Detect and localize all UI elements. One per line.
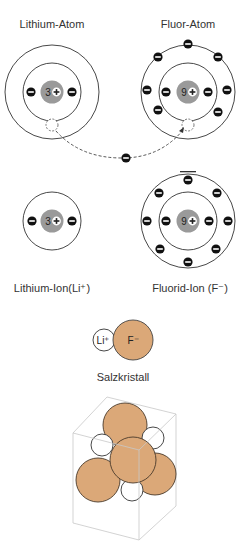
fluor-nucleus-number: 9: [181, 87, 187, 98]
vacated-electron-slot: [46, 119, 58, 131]
salt-crystal: [73, 397, 176, 540]
electron-target-slot: [182, 119, 194, 131]
lithium-ion-label: Lithium-Ion(Li⁺): [14, 282, 90, 294]
electron-transfer-arrow: [56, 127, 184, 163]
fluor-atom: 9: [141, 39, 235, 139]
li-plus-label: Li⁺: [97, 335, 110, 346]
lithium-atom: 3: [5, 45, 99, 139]
negative-charge-mark: [180, 171, 196, 172]
ionic-bond-diagram: Lithium-Atom 3 Fluor-Atom 9: [0, 0, 245, 544]
fluorid-ion-nucleus-number: 9: [181, 216, 187, 227]
transferring-electron-icon: [121, 153, 130, 162]
f-minus-label: F⁻: [127, 335, 138, 346]
fluor-atom-label: Fluor-Atom: [161, 18, 215, 30]
electron-icon: [26, 87, 35, 96]
crystal-label: Salzkristall: [97, 371, 150, 383]
electron-icon: [67, 87, 76, 96]
fluorid-ion: 9: [141, 171, 235, 268]
fluorid-ion-label: Fluorid-Ion (F⁻): [152, 282, 228, 294]
lithium-nucleus-number: 3: [45, 87, 51, 98]
lithium-ion-nucleus-number: 3: [45, 216, 51, 227]
ion-pair: Li⁺ F⁻: [93, 320, 153, 360]
lithium-ion: 3: [23, 192, 81, 250]
lithium-atom-label: Lithium-Atom: [20, 18, 85, 30]
